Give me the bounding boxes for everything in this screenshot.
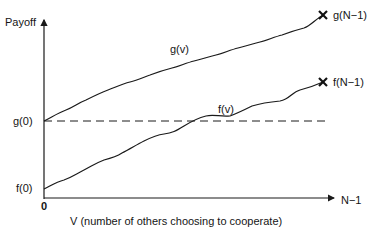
x-end-label: N−1 [341,194,362,206]
f-end-label: f(N−1) [333,76,364,88]
y-axis-label: Payoff [5,16,36,28]
x-axis-label: V (number of others choosing to cooperat… [70,215,282,227]
g-end-marker [319,11,327,19]
f-curve-label: f(v) [218,103,234,115]
payoff-diagram [0,0,375,232]
f-end-marker [319,78,327,86]
f0-label: f(0) [16,182,33,194]
x-origin-label: 0 [41,200,47,212]
f-curve [44,82,323,189]
g0-label: g(0) [13,115,33,127]
g-curve [44,16,323,121]
g-curve-label: g(v) [170,43,189,55]
g-end-label: g(N−1) [333,9,367,21]
